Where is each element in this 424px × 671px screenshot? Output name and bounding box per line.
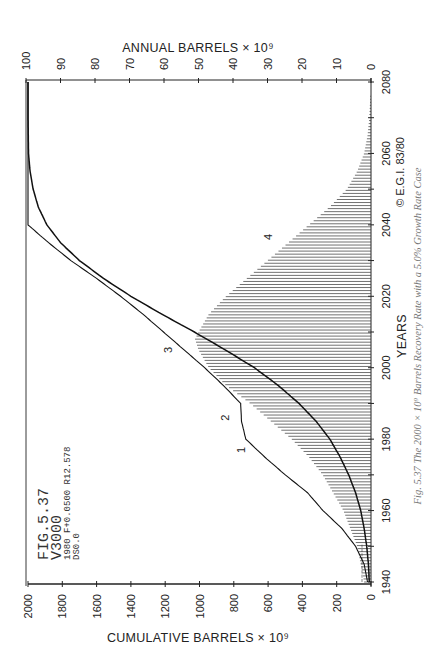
cumulative-tick-label: 0	[365, 594, 377, 600]
year-tick-label: 1960	[380, 498, 392, 522]
annual-tick-label: 90	[55, 58, 67, 70]
cumulative-tick-label: 1000	[194, 594, 206, 618]
annual-tick-label: 100	[20, 52, 32, 70]
cumulative-production-curve	[28, 82, 369, 582]
annual-tick-label: 10	[331, 58, 343, 70]
annual-production-hatch	[195, 96, 371, 582]
cumulative-tick-label: 1800	[56, 594, 68, 618]
cumulative-axis-title: CUMULATIVE BARRELS × 10⁹	[107, 631, 289, 645]
years-axis-ticks: 19401960198020002020204020602080	[368, 70, 392, 594]
cumulative-tick-label: 400	[296, 594, 308, 612]
annual-axis-ticks: 0102030405060708090100	[20, 52, 377, 83]
cumulative-tick-label: 1400	[125, 594, 137, 618]
annual-axis-title: ANNUAL BARRELS × 10⁹	[122, 41, 274, 55]
years-axis-title: YEARS	[395, 314, 409, 358]
cumulative-tick-label: 2000	[22, 594, 34, 618]
year-tick-label: 1940	[380, 570, 392, 594]
annual-tick-label: 30	[262, 58, 274, 70]
cumulative-tick-label: 200	[331, 594, 343, 612]
annual-tick-label: 40	[227, 58, 239, 70]
cumulative-tick-label: 1200	[159, 594, 171, 618]
year-tick-label: 2040	[380, 213, 392, 237]
annual-tick-label: 60	[158, 58, 170, 70]
cumulative-tick-label: 1600	[91, 594, 103, 618]
year-tick-label: 2080	[380, 70, 392, 94]
chart: 0102030405060708090100 02004006008001000…	[0, 0, 424, 671]
year-tick-label: 2060	[380, 141, 392, 165]
cumulative-tick-label: 800	[228, 594, 240, 612]
year-tick-label: 2020	[380, 284, 392, 308]
plot-frame	[26, 78, 371, 586]
annual-tick-label: 20	[296, 58, 308, 70]
cumulative-curves	[28, 82, 369, 582]
annual-tick-label: 70	[124, 58, 136, 70]
annual-tick-label: 50	[193, 58, 205, 70]
curve-label-1: 1	[235, 447, 247, 453]
year-tick-label: 2000	[380, 355, 392, 379]
curve-label-4: 4	[262, 234, 274, 240]
reserves-curve	[28, 82, 368, 582]
copyright-note: © E.G.I. 83/80	[394, 137, 406, 207]
cumulative-tick-label: 600	[262, 594, 274, 612]
annual-tick-label: 80	[89, 58, 101, 70]
cumulative-axis-ticks: 0200400600800100012001400160018002000	[22, 581, 377, 618]
year-tick-label: 1980	[380, 427, 392, 451]
curve-labels: 1234	[162, 234, 274, 453]
figure-caption: Fig. 5.37 The 2000 × 10⁹ Barrels Recover…	[412, 167, 423, 505]
annual-tick-label: 0	[365, 64, 377, 70]
figure-ds: DS0.0	[72, 533, 82, 560]
figure-stamp: FIG.5.37 V3000 1980 F+0.0500 R12.578 DS0…	[36, 447, 82, 560]
curve-label-3: 3	[162, 347, 174, 353]
curve-label-2: 2	[219, 415, 231, 421]
